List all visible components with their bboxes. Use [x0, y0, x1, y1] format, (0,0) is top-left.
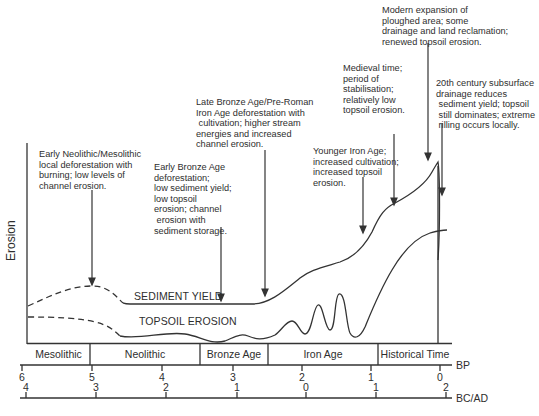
sediment-yield-label: SEDIMENT YIELD	[134, 290, 223, 302]
y-axis-title: Erosion	[4, 220, 18, 261]
bp-axis-name: BP	[456, 359, 470, 371]
annotation-neolithic: Early Neolithic/Mesolithic local defores…	[39, 149, 141, 191]
period-neolithic: Neolithic	[90, 348, 200, 360]
bcad-tick-label: 3	[90, 381, 102, 393]
bcad-tick-label: 2	[440, 381, 452, 393]
bcad-tick-label: 1	[370, 381, 382, 393]
sediment-yield-curve-dashed	[28, 286, 120, 306]
annotation-medieval: Medieval time; period of stabilisation; …	[343, 63, 405, 116]
bcad-tick-label: 1	[231, 381, 243, 393]
bcad-tick-label: 0	[300, 381, 312, 393]
bcad-tick-label: 4	[20, 381, 32, 393]
annotation-late-bronze: Late Bronze Age/Pre-Roman Iron Age defor…	[196, 97, 313, 150]
annotation-twentieth-century: 20th century subsurface drainage reduces…	[436, 78, 535, 131]
topsoil-erosion-curve-dashed	[28, 317, 120, 336]
topsoil-erosion-label: TOPSOIL EROSION	[139, 315, 237, 327]
bcad-tick-label: 2	[160, 381, 172, 393]
period-historical-time: Historical Time	[378, 348, 452, 360]
annotation-modern: Modern expansion of ploughed area; some …	[382, 5, 508, 47]
period-mesolithic: Mesolithic	[27, 348, 90, 360]
annotation-younger-iron: Younger Iron Age; increased cultivation;…	[313, 146, 399, 188]
bcad-axis-name: BC/AD	[456, 392, 488, 404]
annotation-early-bronze: Early Bronze Age deforestation; low sedi…	[154, 162, 232, 236]
period-iron-age: Iron Age	[268, 348, 378, 360]
period-bronze-age: Bronze Age	[200, 348, 268, 360]
